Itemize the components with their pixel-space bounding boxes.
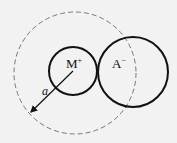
anion-label: A− — [112, 56, 126, 71]
radius-arrow — [31, 71, 73, 112]
radius-label: a — [42, 84, 48, 98]
anion-circle — [98, 37, 168, 107]
ion-pair-diagram: M+ A− a — [0, 0, 177, 143]
exclusion-radius-circle — [14, 12, 136, 134]
cation-label: M+ — [66, 56, 83, 71]
